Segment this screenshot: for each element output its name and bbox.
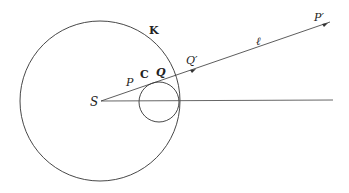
horizontal-line	[101, 100, 333, 101]
label-p-prime: P′	[313, 11, 324, 24]
label-q-prime: Q′	[186, 54, 198, 67]
label-s: S	[90, 95, 98, 109]
label-ell: ℓ	[256, 35, 261, 48]
label-c: C	[140, 68, 149, 81]
label-k: K	[149, 24, 159, 37]
label-q: Q	[156, 66, 166, 79]
label-p: P	[125, 76, 134, 89]
circle-c	[139, 82, 179, 122]
ray-l	[101, 22, 330, 101]
inversion-diagram: K C Q P S Q′ ℓ P′	[0, 0, 349, 193]
